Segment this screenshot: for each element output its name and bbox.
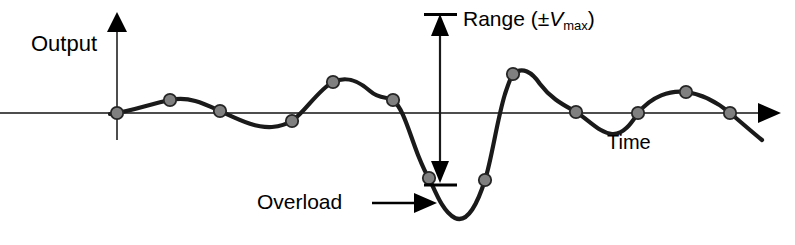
sample-point-dot: [570, 106, 582, 118]
sample-point-dot: [423, 172, 435, 184]
x-axis-arrowhead-icon: [758, 103, 781, 123]
sample-point-dot: [724, 107, 736, 119]
range-label-symbol: V: [549, 7, 563, 30]
y-axis-arrowhead-icon: [107, 12, 127, 32]
overload-annotation-label: Overload: [257, 191, 342, 212]
range-measurement-arrow: [424, 14, 457, 185]
sample-point-dot: [286, 115, 298, 127]
overload-arrowhead-icon: [414, 193, 437, 213]
range-annotation-label: Range (±Vmax): [463, 8, 595, 29]
sample-point-dot: [507, 68, 519, 80]
waveform-overload-diagram: Output Time Overload Range (±Vmax): [0, 0, 795, 245]
range-label-prefix: Range (±: [463, 7, 549, 30]
waveform-plot-svg: [0, 0, 795, 245]
sample-point-dot: [164, 94, 176, 106]
sample-point-dot: [680, 86, 692, 98]
y-axis: [107, 12, 127, 140]
sample-point-dot: [479, 174, 491, 186]
sample-point-dot: [327, 76, 339, 88]
overload-pointer-arrow: [372, 193, 437, 213]
range-label-suffix: ): [588, 7, 595, 30]
sample-point-dot: [632, 107, 644, 119]
sample-point-dot: [111, 107, 123, 119]
x-axis-label: Time: [607, 132, 651, 152]
y-axis-label: Output: [31, 33, 97, 55]
sample-point-dot: [387, 94, 399, 106]
sample-point-dot: [214, 105, 226, 117]
range-label-subscript: max: [563, 18, 588, 33]
range-arrowhead-up-icon: [431, 14, 449, 36]
signal-waveform-curve: [110, 70, 762, 219]
